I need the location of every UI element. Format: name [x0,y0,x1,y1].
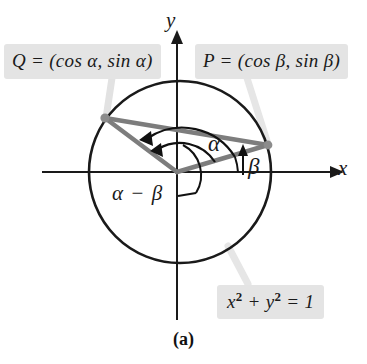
leader-line-equation [228,246,248,284]
arc-alpha-minus-beta-curve [158,143,215,162]
point-q-marker [100,113,109,122]
x-axis-label: x [338,158,347,179]
equation-rest: = 1 [281,291,314,312]
trigonometry-figure: Q = (cos α, sin α) P = (cos β, sin β) x2… [0,0,367,364]
equation-plus: + [243,291,266,312]
label-point-q: Q = (cos α, sin α) [4,44,161,79]
arc-beta-curve [235,157,238,172]
angle-label-alpha-minus-beta: α − β [112,183,163,204]
chord-qp [105,118,268,145]
y-axis-label: y [166,10,175,31]
leader-line-p [247,78,268,144]
arc-beta [235,144,248,175]
point-p-marker [264,141,273,150]
arc-alpha-minus-beta-leader [178,193,196,196]
figure-caption: (a) [0,330,367,348]
y-axis-arrowhead [171,30,183,44]
equation-x: x [227,291,236,312]
label-point-p: P = (cos β, sin β) [195,44,348,79]
angle-label-beta: β [248,155,259,178]
label-circle-equation: x2 + y2 = 1 [217,285,324,319]
angle-label-alpha: α [208,132,220,155]
equation-exponent-x: 2 [236,289,243,304]
